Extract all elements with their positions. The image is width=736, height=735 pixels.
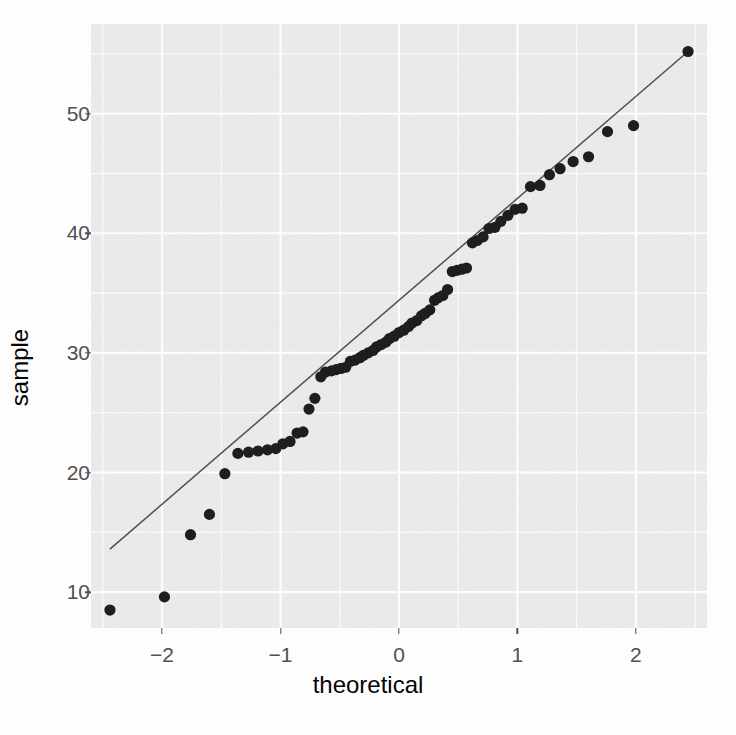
y-tick-mark xyxy=(85,472,91,473)
x-tick-label: 0 xyxy=(393,643,405,667)
x-tick-mark xyxy=(635,628,636,634)
y-tick-mark xyxy=(85,591,91,592)
x-tick-label: 1 xyxy=(512,643,524,667)
x-tick-mark xyxy=(517,628,518,634)
x-tick-mark xyxy=(398,628,399,634)
x-tick-label: −1 xyxy=(269,643,293,667)
x-tick-mark xyxy=(280,628,281,634)
x-tick-mark xyxy=(161,628,162,634)
x-tick-label: −2 xyxy=(150,643,174,667)
x-axis-title: theoretical xyxy=(0,671,736,699)
x-tick-label: 2 xyxy=(630,643,642,667)
data-points xyxy=(91,24,707,628)
y-tick-mark xyxy=(85,113,91,114)
qq-plot-figure: 1020304050 −2−1012 theoretical sample xyxy=(0,0,736,735)
y-tick-mark xyxy=(85,352,91,353)
plot-panel xyxy=(91,24,707,628)
y-tick-mark xyxy=(85,233,91,234)
y-axis-title: sample xyxy=(0,0,40,735)
